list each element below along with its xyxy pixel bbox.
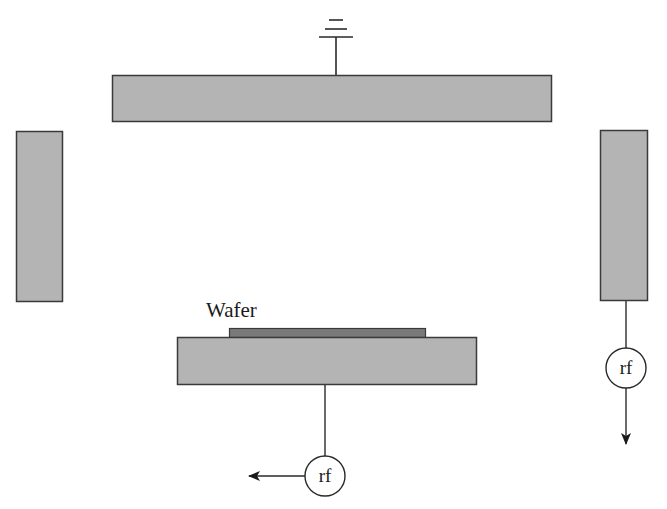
rf-right-label: rf [620,357,633,378]
left-electrode [17,132,63,302]
wafer [230,329,426,338]
ground-icon [319,20,353,75]
plasma-reactor-diagram: rf rf Wafer [0,0,667,509]
right-electrode [601,131,648,301]
rf-bottom-label: rf [319,465,332,486]
bottom-electrode [178,338,477,385]
wafer-label: Wafer [206,298,257,323]
rf-source-bottom: rf [249,385,345,496]
top-electrode [113,76,552,122]
rf-source-right: rf [606,301,646,444]
